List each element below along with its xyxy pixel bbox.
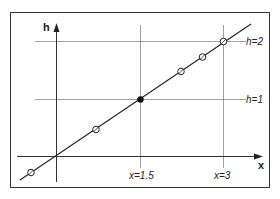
diagram-canvas: h x h=2 h=1 x=1.5 x=3 — [0, 0, 280, 199]
x-axis-label: x — [258, 159, 265, 171]
guide-x3-label: x=3 — [213, 170, 231, 181]
open-point — [93, 126, 100, 133]
guide-h2-label: h=2 — [246, 36, 263, 47]
h-axis-arrow-icon — [54, 23, 60, 32]
guide-x1-5-label: x=1.5 — [128, 170, 154, 181]
open-point — [178, 68, 185, 75]
open-point — [28, 169, 35, 176]
h-axis-label: h — [43, 21, 50, 33]
guide-h1-label: h=1 — [246, 94, 263, 105]
filled-point — [137, 96, 143, 102]
open-point — [199, 54, 206, 61]
open-point — [220, 38, 227, 45]
